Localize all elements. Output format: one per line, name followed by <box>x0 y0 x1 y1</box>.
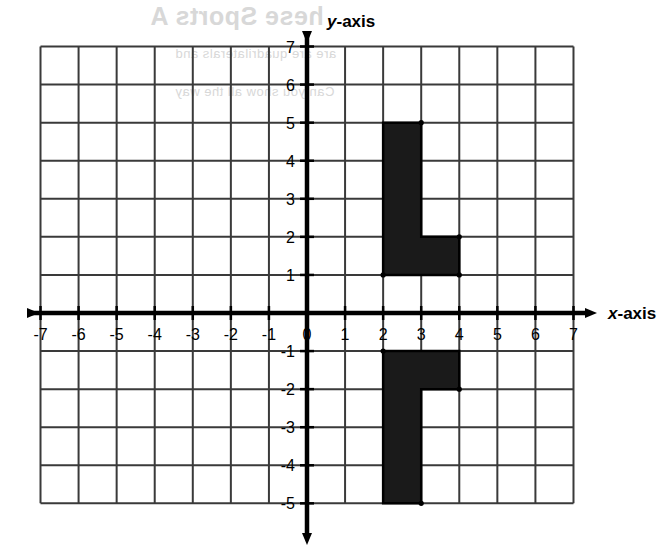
vertex-dot <box>419 501 424 506</box>
y-tick-label: -2 <box>281 381 295 398</box>
y-tick-label: -1 <box>281 343 295 360</box>
x-tick-label: 7 <box>569 326 578 343</box>
y-tick-label: 5 <box>286 115 295 132</box>
y-tick-label: -3 <box>281 419 295 436</box>
coordinate-plane-svg: -7-6-5-4-3-2-101234567 -5-4-3-2-11234567… <box>0 0 672 551</box>
vertex-dot <box>381 348 386 353</box>
x-tick-label: 2 <box>379 326 388 343</box>
y-tick-label: 6 <box>286 77 295 94</box>
x-tick-label: 4 <box>455 326 464 343</box>
coordinate-plane-figure: hese Sports A are are quadrilaterals and… <box>0 0 672 551</box>
x-tick-label: -7 <box>33 326 47 343</box>
y-tick-label: 4 <box>286 153 295 170</box>
x-tick-label: -1 <box>262 326 276 343</box>
x-tick-label: 3 <box>417 326 426 343</box>
y-tick-label: -5 <box>281 495 295 512</box>
x-axis-tick-labels: -7-6-5-4-3-2-101234567 <box>33 326 578 343</box>
x-tick-label: 5 <box>493 326 502 343</box>
x-axis-title: x-axis <box>607 304 656 323</box>
x-tick-label: -3 <box>186 326 200 343</box>
y-axis-title: y-axis <box>326 12 375 31</box>
vertex-dot <box>457 272 462 277</box>
x-tick-label: 6 <box>531 326 540 343</box>
x-tick-label: -2 <box>224 326 238 343</box>
x-tick-label: 1 <box>341 326 350 343</box>
x-tick-label: -4 <box>148 326 162 343</box>
x-tick-label: 0 <box>303 326 312 343</box>
vertex-dot <box>419 120 424 125</box>
vertex-dot <box>457 234 462 239</box>
y-tick-label: -4 <box>281 457 295 474</box>
vertex-dot <box>381 272 386 277</box>
y-tick-label: 1 <box>286 267 295 284</box>
y-tick-label: 2 <box>286 229 295 246</box>
y-tick-label: 7 <box>286 39 295 56</box>
x-tick-label: -5 <box>110 326 124 343</box>
y-tick-label: 3 <box>286 191 295 208</box>
x-tick-label: -6 <box>71 326 85 343</box>
axes <box>28 32 586 534</box>
vertex-dot <box>457 387 462 392</box>
